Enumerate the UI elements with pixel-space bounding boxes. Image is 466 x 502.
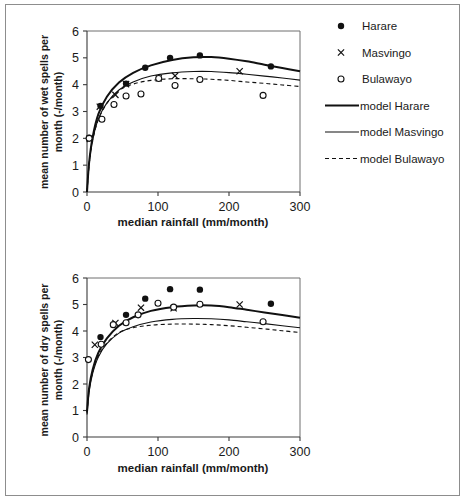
data-point [197,52,203,58]
legend-item-label: model Masvingo [360,126,444,138]
model-curve-model-masvingo [87,319,300,415]
y-axis-tick-label: 4 [72,325,79,339]
y-axis-tick-label: 3 [72,351,79,365]
legend-item-masvingo: Masvingo [338,47,411,59]
data-point [123,312,129,318]
legend-item-model-masvingo: model Masvingo [325,126,444,138]
legend-item-model-bulawayo: model Bulawayo [325,153,444,165]
x-axis-tick-label: 0 [84,445,91,459]
dry-model-curves-group [87,305,300,414]
data-point [167,286,173,292]
data-point [135,312,141,318]
wet-tick-labels-group: 01234560100200300 [72,25,310,215]
x-axis-tick-label: 200 [219,445,240,459]
wet-model-curves-group [87,57,300,192]
data-point [260,92,266,98]
data-point [260,319,266,325]
dry-x-axis-title: median rainfall (mm/month) [118,462,269,474]
x-axis-tick-label: 200 [219,200,240,214]
data-point [197,301,203,307]
data-point [197,77,203,83]
dry-y-axis-title-line1: mean number of dry spells per [38,284,50,437]
x-axis-tick-label: 300 [290,200,311,214]
dry-axes-group [83,278,300,441]
wet-spells-figure: mean number of wet spells per month (-/m… [0,0,466,250]
wet-data-points-group [86,52,274,142]
y-axis-tick-label: 2 [72,378,79,392]
y-axis-tick-label: 1 [72,159,79,173]
y-axis-tick-label: 4 [72,78,79,92]
filled-circle-marker [338,23,344,29]
x-axis-tick-label: 300 [290,445,311,459]
dry-y-axis-title: mean number of dry spells per month (-/m… [38,284,64,437]
y-axis-tick-label: 1 [72,404,79,418]
data-point [92,342,98,348]
y-axis-tick-label: 0 [72,431,79,445]
legend-item-label: model Bulawayo [360,153,444,165]
y-axis-tick-label: 6 [72,272,79,286]
data-point [172,82,178,88]
y-axis-tick-label: 2 [72,132,79,146]
data-point [97,334,103,340]
open-circle-marker [338,76,344,82]
data-point [172,73,178,79]
legend-item-label: Harare [362,20,397,32]
model-curve-model-harare [87,57,300,192]
dry-data-points-group [85,286,274,363]
model-curve-model-masvingo [87,71,300,192]
data-point [237,301,243,307]
data-point [197,286,203,292]
wet-y-axis-title-line2: month (-/month) [52,72,64,152]
plot-area-border [87,31,300,192]
data-point [171,304,177,310]
y-axis-tick-label: 3 [72,105,79,119]
legend-item-label: Masvingo [362,47,411,59]
data-point [99,116,105,122]
wet-x-axis-title: median rainfall (mm/month) [118,216,269,228]
data-point [111,102,117,108]
series-bulawayo [86,75,266,141]
legend: HarareMasvingoBulawayomodel Hararemodel … [325,20,444,165]
model-curve-model-bulawayo [87,79,300,192]
data-point [138,305,144,311]
y-axis-tick-label: 6 [72,25,79,39]
x-axis-tick-label: 100 [148,200,169,214]
legend-item-harare: Harare [338,20,397,32]
model-curve-model-harare [87,305,300,411]
model-curve-model-bulawayo [87,324,300,413]
plot-area-border [87,278,300,437]
data-point [86,135,92,141]
wet-axes-group [83,31,300,196]
dry-spells-figure: mean number of dry spells per month (-/m… [0,250,466,495]
x-axis-tick-label: 100 [148,445,169,459]
data-point [155,300,161,306]
wet-y-axis-title-line1: mean number of wet spells per [38,35,50,189]
y-axis-tick-label: 5 [72,298,79,312]
dry-spells-chart: mean number of dry spells per month (-/m… [0,250,466,495]
cross-marker [338,49,344,55]
dry-y-axis-title-line2: month (-/month) [52,320,64,400]
data-point [138,91,144,97]
x-axis-tick-label: 0 [84,200,91,214]
series-harare [97,286,274,340]
data-point [98,341,104,347]
data-point [142,295,148,301]
data-point [123,320,129,326]
wet-spells-chart: mean number of wet spells per month (-/m… [0,0,466,250]
figure-page: mean number of wet spells per month (-/m… [0,0,466,502]
y-axis-tick-label: 5 [72,51,79,65]
dry-tick-labels-group: 01234560100200300 [72,272,310,460]
legend-item-model-harare: model Harare [325,100,430,112]
data-point [85,357,91,363]
legend-item-label: Bulawayo [362,73,412,85]
y-axis-tick-label: 0 [72,186,79,200]
data-point [167,55,173,61]
data-point [110,322,116,328]
data-point [142,65,148,71]
data-point [156,75,162,81]
data-point [268,63,274,69]
data-point [268,301,274,307]
data-point [123,93,129,99]
legend-item-bulawayo: Bulawayo [338,73,412,85]
wet-y-axis-title: mean number of wet spells per month (-/m… [38,35,64,189]
